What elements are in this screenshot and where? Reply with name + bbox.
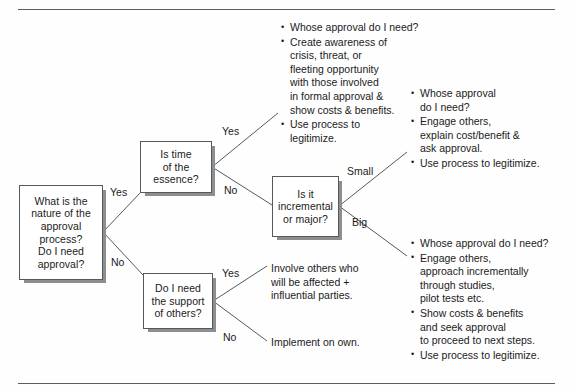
- node-label: Is it incremental or major?: [275, 188, 336, 226]
- node-label: What is the nature of the approval proce…: [28, 195, 94, 271]
- list-item: Create awareness of crisis, threat, or f…: [281, 36, 421, 118]
- decision-node-incremental-or-major[interactable]: Is it incremental or major?: [272, 176, 339, 237]
- list-item: Engage others, approach incrementally th…: [411, 252, 571, 306]
- node-label: Do I need the support of others?: [148, 282, 207, 320]
- edge-label-nature-yes: Yes: [110, 186, 127, 198]
- list-item: Use process to legitimize.: [281, 118, 421, 145]
- outcome-list-urgent: Whose approval do I need? Create awarene…: [281, 21, 421, 146]
- outcome-text-involve-others: Involve others who will be affected + in…: [271, 262, 411, 303]
- list-item: Whose approval do I need?: [411, 87, 566, 114]
- edge-label-scale-big: Big: [352, 216, 367, 228]
- edge-label-scale-small: Small: [347, 165, 373, 177]
- list-item: Show costs & benefits and seek approval …: [411, 307, 571, 348]
- edge-label-support-yes: Yes: [222, 267, 239, 279]
- list-item: Engage others, explain cost/benefit & as…: [411, 115, 566, 156]
- edge-label-time-yes: Yes: [222, 125, 239, 137]
- edge-label-support-no: No: [223, 331, 236, 343]
- list-item: Use process to legitimize.: [411, 157, 566, 171]
- outcome-text-implement-on-own: Implement on own.: [271, 336, 411, 350]
- decision-node-do-i-need-support[interactable]: Do I need the support of others?: [143, 273, 213, 329]
- outcome-list-big: Whose approval do I need? Engage others,…: [411, 237, 571, 363]
- list-item: Whose approval do I need?: [281, 21, 421, 35]
- decision-node-is-time-of-the-essence[interactable]: Is time of the essence?: [140, 141, 212, 193]
- diagram-canvas: What is the nature of the approval proce…: [0, 0, 571, 391]
- top-horizontal-rule: [18, 9, 555, 10]
- edge-label-nature-no: No: [111, 256, 124, 268]
- outcome-list-small: Whose approval do I need? Engage others,…: [411, 87, 566, 172]
- node-label: Is time of the essence?: [150, 148, 201, 186]
- bottom-horizontal-rule: [18, 383, 555, 384]
- decision-node-nature-of-approval[interactable]: What is the nature of the approval proce…: [19, 185, 103, 280]
- list-item: Whose approval do I need?: [411, 237, 571, 251]
- edge-label-time-no: No: [224, 184, 237, 196]
- list-item: Use process to legitimize.: [411, 349, 571, 363]
